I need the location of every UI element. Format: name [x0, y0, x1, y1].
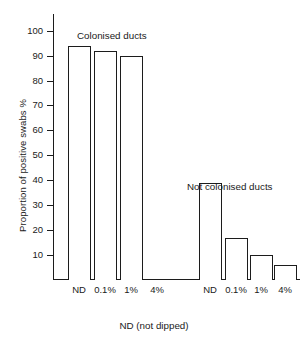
x-tick-label: 4% — [133, 284, 181, 295]
y-tick-50: 50 — [47, 155, 54, 156]
y-tick-20: 20 — [47, 230, 54, 231]
y-tick-10: 10 — [47, 255, 54, 256]
y-tick-label-50: 50 — [32, 149, 43, 160]
bar — [250, 255, 273, 280]
y-tick-label-90: 90 — [32, 50, 43, 61]
bar — [68, 46, 91, 280]
bar — [120, 56, 143, 280]
y-tick-100: 100 — [47, 31, 54, 32]
annotation-not-colonised-ducts: Not colonised ducts — [187, 181, 273, 192]
y-tick-label-100: 100 — [27, 25, 43, 36]
plot-area: 102030405060708090100 ND0.1%1%4%ND0.1%1%… — [53, 14, 300, 280]
y-tick-30: 30 — [47, 205, 54, 206]
y-axis-line — [53, 14, 54, 280]
y-tick-label-20: 20 — [32, 224, 43, 235]
y-tick-40: 40 — [47, 180, 54, 181]
y-tick-70: 70 — [47, 105, 54, 106]
bar — [225, 238, 248, 280]
y-tick-90: 90 — [47, 56, 54, 57]
y-axis-label: Proportion of positive swabs % — [17, 66, 28, 266]
y-tick-label-40: 40 — [32, 174, 43, 185]
y-tick-label-70: 70 — [32, 99, 43, 110]
y-tick-label-30: 30 — [32, 199, 43, 210]
y-tick-label-60: 60 — [32, 124, 43, 135]
bar — [199, 183, 222, 280]
y-tick-80: 80 — [47, 81, 54, 82]
bar — [94, 51, 117, 280]
bar — [274, 265, 297, 280]
bar-chart-figure: Proportion of positive swabs % 102030405… — [0, 0, 308, 345]
y-tick-label-10: 10 — [32, 249, 43, 260]
y-tick-60: 60 — [47, 130, 54, 131]
x-axis-caption: ND (not dipped) — [0, 320, 308, 331]
y-tick-label-80: 80 — [32, 75, 43, 86]
x-tick-label: 4% — [261, 284, 308, 295]
annotation-colonised-ducts: Colonised ducts — [77, 30, 147, 41]
